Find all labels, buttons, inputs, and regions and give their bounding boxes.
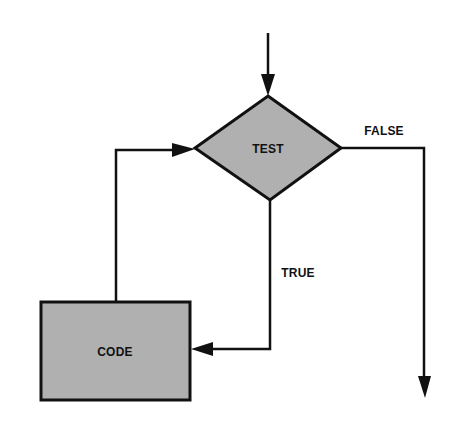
arrowhead-down-icon [418,376,431,398]
arrowhead-down-icon [261,74,275,96]
arrowhead-right-icon [172,143,195,157]
code-process-node: CODE [41,302,190,400]
test-label: TEST [252,142,284,156]
arrowhead-left-icon [191,342,213,356]
code-label: CODE [97,345,132,359]
true-branch-edge: TRUE [191,200,315,356]
loop-back-edge [116,143,195,302]
entry-arrow [261,33,275,96]
true-label: TRUE [281,266,314,280]
false-branch-edge: FALSE [341,124,431,398]
test-decision-node: TEST [195,96,341,200]
flowchart-diagram: TEST FALSE TRUE CODE [0,0,457,421]
false-label: FALSE [364,124,404,138]
